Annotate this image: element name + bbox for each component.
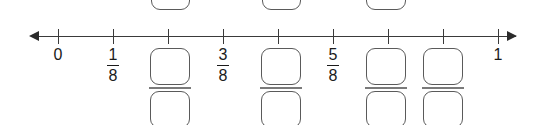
tick-mark-4 [278, 29, 279, 44]
axis-label-five-eighths: 5 8 [327, 46, 339, 84]
fraction-denominator: 8 [219, 67, 228, 84]
axis-label-one-eighth: 1 8 [107, 46, 119, 84]
numerator-input-2[interactable] [261, 48, 301, 85]
fraction-numerator: 3 [219, 47, 228, 64]
worksheet-canvas: 0 1 8 3 8 5 8 1 [0, 0, 546, 125]
denominator-input-3[interactable] [366, 91, 406, 125]
top-partial-answer-box-1[interactable] [151, 0, 190, 10]
right-arrow-icon [507, 31, 517, 41]
tick-mark-8 [498, 29, 499, 44]
fraction-bar-icon-3 [365, 87, 407, 89]
fraction-denominator: 8 [109, 67, 118, 84]
tick-mark-2 [168, 29, 169, 44]
numerator-input-3[interactable] [366, 48, 406, 85]
tick-mark-3 [223, 29, 224, 44]
fraction-bar-icon-4 [422, 87, 464, 89]
axis-label-one: 1 [494, 46, 503, 64]
fraction-bar-icon [327, 65, 339, 66]
tick-mark-6 [388, 29, 389, 44]
fraction-denominator: 8 [329, 67, 338, 84]
tick-mark-0 [58, 29, 59, 44]
fraction-bar-icon-1 [149, 87, 191, 89]
top-partial-answer-box-3[interactable] [366, 0, 406, 10]
axis-label-zero: 0 [54, 46, 63, 64]
fraction-five-eighths: 5 8 [327, 47, 339, 84]
fraction-numerator: 5 [329, 47, 338, 64]
axis-label-three-eighths: 3 8 [217, 46, 229, 84]
fraction-one-eighth: 1 8 [107, 47, 119, 84]
fraction-bar-icon-2 [260, 87, 302, 89]
fraction-three-eighths: 3 8 [217, 47, 229, 84]
denominator-input-1[interactable] [150, 91, 190, 125]
top-partial-answer-box-2[interactable] [262, 0, 301, 10]
numerator-input-4[interactable] [423, 48, 463, 85]
denominator-input-4[interactable] [423, 91, 463, 125]
numerator-input-1[interactable] [150, 48, 190, 85]
tick-mark-7 [443, 29, 444, 44]
tick-mark-5 [333, 29, 334, 44]
fraction-bar-icon [217, 65, 229, 66]
fraction-bar-icon [107, 65, 119, 66]
tick-mark-1 [113, 29, 114, 44]
left-arrow-icon [29, 31, 39, 41]
fraction-numerator: 1 [109, 47, 118, 64]
denominator-input-2[interactable] [261, 91, 301, 125]
